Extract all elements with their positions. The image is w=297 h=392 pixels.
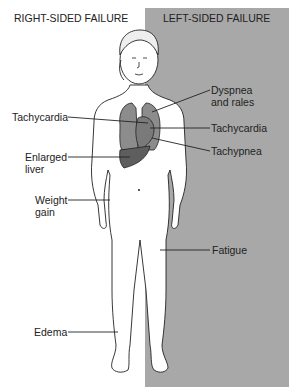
label-tachycardia-right: Tachycardia — [12, 111, 68, 123]
label-dyspnea-line1: Dyspnea — [211, 84, 252, 96]
label-dyspnea-line2: and rales — [211, 96, 254, 108]
label-fatigue: Fatigue — [212, 244, 247, 256]
label-enlarged-liver-line2: liver — [25, 163, 44, 175]
label-tachypnea: Tachypnea — [211, 145, 262, 157]
label-weight-gain-line1: Weight — [35, 194, 68, 206]
label-enlarged-liver-line1: Enlarged — [25, 151, 67, 163]
right-lung-shape — [120, 103, 138, 150]
label-edema: Edema — [34, 326, 67, 338]
label-weight-gain-line2: gain — [35, 206, 55, 218]
label-tachycardia-left: Tachycardia — [211, 122, 267, 134]
